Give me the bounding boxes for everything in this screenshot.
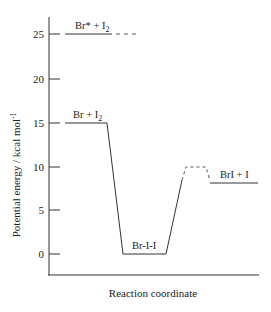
label-br-i2: Br + I2 (73, 109, 102, 123)
label-br-star-i2: Br* + I2 (75, 20, 109, 34)
ytick-10: 10 (33, 161, 45, 173)
energy-profile (65, 123, 182, 254)
ytick-15: 15 (33, 117, 45, 129)
barrier-dashed (182, 167, 210, 181)
ytick-20: 20 (33, 73, 45, 85)
y-axis-title: Potential energy / kcal mol-1 (9, 112, 22, 237)
ytick-25: 25 (33, 28, 45, 40)
x-axis-title: Reaction coordinate (109, 287, 197, 299)
y-tick-labels: 25 20 15 10 5 0 (33, 28, 45, 260)
energy-diagram: 25 20 15 10 5 0 Br* + I2 Br + I2 Br-I-I … (0, 0, 271, 312)
label-bri-i: BrI + I (220, 169, 249, 180)
y-ticks (49, 34, 60, 254)
label-br-i-i: Br-I-I (132, 240, 157, 251)
ytick-0: 0 (39, 248, 45, 260)
ytick-5: 5 (39, 204, 45, 216)
